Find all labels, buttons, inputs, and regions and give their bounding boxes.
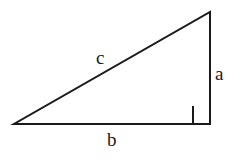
triangle-shape xyxy=(14,12,210,124)
right-angle-marker-icon xyxy=(193,106,211,124)
triangle-graphic xyxy=(0,0,239,159)
vertical-leg-label: a xyxy=(215,64,223,83)
right-triangle-diagram: c a b xyxy=(0,0,239,159)
hypotenuse-label: c xyxy=(96,48,104,67)
horizontal-leg-label: b xyxy=(107,130,117,149)
